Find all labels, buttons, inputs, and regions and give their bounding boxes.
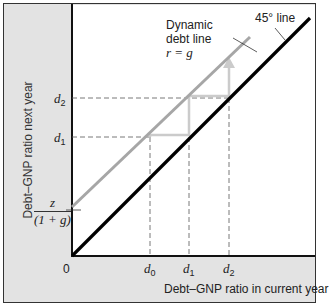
dynamic-line-label-1: Dynamic xyxy=(166,19,213,31)
y-tick-d1: d1 xyxy=(54,131,66,147)
origin-label: 0 xyxy=(63,263,70,275)
intercept-label: z (1 + g) xyxy=(34,196,71,226)
x-tick-d1: d1 xyxy=(183,262,195,278)
x-tick-d0: d0 xyxy=(144,262,156,278)
y-axis-title: Debt–GNP ratio next year xyxy=(21,81,35,218)
y-tick-d2: d2 xyxy=(54,92,66,108)
dynamic-line-label-2: debt line xyxy=(166,33,211,45)
dynamic-line-label-3: r = g xyxy=(166,46,193,59)
forty-five-line-label: 45° line xyxy=(255,12,295,24)
x-axis-title: Debt–GNP ratio in current year xyxy=(164,283,329,295)
intercept-numerator: z xyxy=(34,196,71,212)
intercept-denominator: (1 + g) xyxy=(34,212,71,227)
x-tick-d2: d2 xyxy=(223,262,235,278)
